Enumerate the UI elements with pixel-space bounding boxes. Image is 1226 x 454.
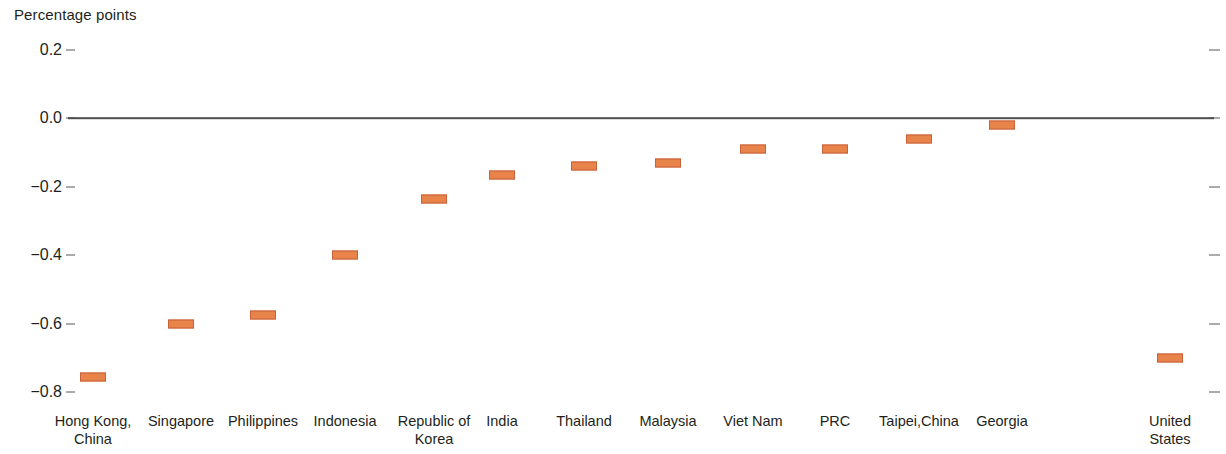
x-axis-category-label: Thailand: [556, 412, 612, 430]
x-axis-category-label: Indonesia: [314, 412, 377, 430]
x-axis-category-label: Republic of Korea: [398, 412, 471, 448]
y-axis-tick-mark-left: [66, 255, 75, 256]
data-marker: [80, 372, 106, 381]
y-axis-tick-mark-right: [1209, 50, 1220, 51]
y-axis-tick-label: −0.6: [0, 315, 62, 333]
x-axis-category-label: Philippines: [228, 412, 298, 430]
data-marker: [421, 194, 447, 203]
y-axis-tick-label: −0.2: [0, 178, 62, 196]
y-axis-tick-mark-left: [66, 50, 75, 51]
y-axis-tick-mark-left: [66, 186, 75, 187]
x-axis-category-label: Singapore: [148, 412, 214, 430]
data-marker: [989, 121, 1015, 130]
data-marker: [250, 311, 276, 320]
y-axis-tick-label: −0.4: [0, 246, 62, 264]
y-axis-tick-label: −0.8: [0, 383, 62, 401]
x-axis-category-label: United States: [1142, 412, 1198, 448]
x-axis-category-label: PRC: [820, 412, 851, 430]
y-axis-tick-mark-left: [66, 323, 75, 324]
data-marker: [655, 158, 681, 167]
y-axis-tick-mark-right: [1209, 392, 1220, 393]
x-axis-category-label: India: [486, 412, 517, 430]
zero-baseline: [68, 118, 1214, 120]
data-marker: [571, 162, 597, 171]
x-axis-category-label: Taipei,China: [879, 412, 959, 430]
y-axis-tick-label: 0.2: [0, 41, 62, 59]
data-marker: [332, 251, 358, 260]
y-axis-tick-mark-left: [66, 392, 75, 393]
y-axis-tick-mark-right: [1209, 186, 1220, 187]
data-marker: [822, 145, 848, 154]
data-marker: [168, 319, 194, 328]
y-axis-tick-mark-right: [1209, 255, 1220, 256]
x-axis-category-label: Malaysia: [639, 412, 696, 430]
chart-canvas: Percentage points 0.20.0−0.2−0.4−0.6−0.8…: [0, 0, 1226, 454]
x-axis-category-label: Hong Kong, China: [55, 412, 132, 448]
y-axis-tick-mark-right: [1209, 323, 1220, 324]
x-axis-category-label: Viet Nam: [723, 412, 782, 430]
x-axis-category-label: Georgia: [976, 412, 1028, 430]
data-marker: [489, 170, 515, 179]
data-marker: [1157, 353, 1183, 362]
data-marker: [740, 145, 766, 154]
y-axis-tick-label: 0.0: [0, 109, 62, 127]
data-marker: [906, 134, 932, 143]
y-axis-title: Percentage points: [14, 6, 137, 23]
